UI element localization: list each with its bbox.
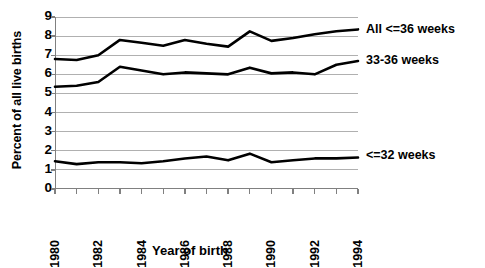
y-tick-label: 6 bbox=[30, 67, 52, 81]
y-tick-label: 4 bbox=[30, 105, 52, 119]
y-tick-label: 9 bbox=[30, 9, 52, 23]
y-axis-title-text: Percent of all live births bbox=[10, 31, 24, 169]
x-axis-title: Year of birth bbox=[0, 243, 380, 258]
series-label: 33-36 weeks bbox=[366, 54, 439, 67]
y-axis-tick-labels: 0123456789 bbox=[30, 0, 52, 200]
y-tick-label: 2 bbox=[30, 143, 52, 157]
series-label: <=32 weeks bbox=[366, 148, 436, 161]
plot-area bbox=[55, 16, 358, 188]
y-tick-label: 5 bbox=[30, 86, 52, 100]
y-tick-label: 0 bbox=[30, 181, 52, 195]
y-tick-label: 3 bbox=[30, 124, 52, 138]
y-axis-title: Percent of all live births bbox=[2, 0, 32, 200]
series-label: All <=36 weeks bbox=[366, 23, 455, 36]
x-axis-tick-labels: 19801982198419861988199019921994 bbox=[55, 192, 358, 248]
y-tick-label: 1 bbox=[30, 162, 52, 176]
y-tick-label: 8 bbox=[30, 28, 52, 42]
preterm-birth-line-chart: Percent of all live births 0123456789 19… bbox=[0, 0, 485, 268]
data-series-line bbox=[55, 154, 358, 165]
y-tick-label: 7 bbox=[30, 47, 52, 61]
plot-svg bbox=[55, 16, 358, 196]
